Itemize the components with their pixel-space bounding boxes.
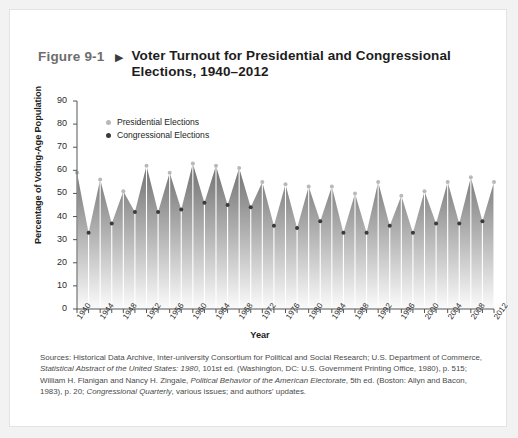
y-axis-tick: 70 <box>45 141 67 151</box>
legend-item-presidential: Presidential Elections <box>106 117 209 127</box>
y-axis-tick: 90 <box>45 95 67 105</box>
chart-legend: Presidential Elections Congressional Ele… <box>106 117 209 143</box>
y-axis-tick: 60 <box>45 164 67 174</box>
y-axis-tick: 10 <box>45 280 67 290</box>
y-axis-label: Percentage of Voting-Age Population <box>33 75 43 255</box>
y-axis-tick: 0 <box>45 303 67 313</box>
legend-item-congressional: Congressional Elections <box>106 130 209 140</box>
congressional-marker-icon <box>106 133 111 138</box>
y-axis-tick: 20 <box>45 257 67 267</box>
y-axis-tick: 30 <box>45 234 67 244</box>
legend-label-congressional: Congressional Elections <box>117 130 209 140</box>
sources-note: Sources: Historical Data Archive, Inter-… <box>40 352 490 398</box>
y-axis-tick: 80 <box>45 118 67 128</box>
figure-card: Figure 9-1 ▶ Voter Turnout for President… <box>9 9 507 427</box>
y-axis-tick: 50 <box>45 187 67 197</box>
x-axis-label: Year <box>140 330 380 340</box>
presidential-marker-icon <box>106 120 111 125</box>
legend-label-presidential: Presidential Elections <box>117 117 199 127</box>
y-axis-tick: 40 <box>45 211 67 221</box>
